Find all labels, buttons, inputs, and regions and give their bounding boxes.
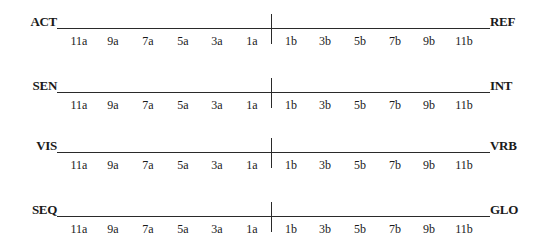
scale-right-pole-label: VRB <box>490 139 517 152</box>
tick-label-a: 11a <box>64 159 94 171</box>
tick-label-a: 9a <box>98 223 128 235</box>
tick-label-a: 9a <box>98 99 128 111</box>
tick-label-a: 11a <box>64 223 94 235</box>
scale-right-pole-label: GLO <box>490 203 518 216</box>
tick-label-a: 3a <box>202 223 232 235</box>
tick-label-b: 5b <box>345 159 375 171</box>
tick-label-a: 9a <box>98 159 128 171</box>
tick-label-a: 3a <box>202 159 232 171</box>
tick-label-b: 7b <box>380 223 410 235</box>
tick-label-a: 3a <box>202 99 232 111</box>
scale-left-pole-label: VIS <box>36 139 57 152</box>
scale-axis-line <box>57 216 490 217</box>
tick-label-b: 9b <box>414 223 444 235</box>
scale-right-pole-label: INT <box>490 79 512 92</box>
tick-label-a: 5a <box>168 99 198 111</box>
tick-label-a: 7a <box>133 159 163 171</box>
tick-label-b: 5b <box>345 223 375 235</box>
tick-label-b: 1b <box>276 159 306 171</box>
scale-axis-line <box>57 92 490 93</box>
tick-label-a: 1a <box>237 223 267 235</box>
tick-label-b: 3b <box>310 159 340 171</box>
tick-label-a: 11a <box>64 99 94 111</box>
scale-center-tick <box>271 202 272 232</box>
tick-label-a: 5a <box>168 223 198 235</box>
scale-left-pole-label: SEQ <box>32 203 57 216</box>
tick-label-b: 11b <box>449 159 479 171</box>
tick-label-b: 9b <box>414 159 444 171</box>
tick-label-a: 1a <box>237 99 267 111</box>
tick-label-a: 5a <box>168 159 198 171</box>
tick-label-b: 9b <box>414 99 444 111</box>
tick-label-a: 1a <box>237 159 267 171</box>
tick-label-b: 5b <box>345 99 375 111</box>
tick-label-b: 1b <box>276 223 306 235</box>
scale-row-sequential-global: SEQGLO11a9a7a5a3a1a1b3b5b7b9b11b <box>0 0 547 40</box>
tick-label-b: 7b <box>380 159 410 171</box>
tick-label-b: 3b <box>310 223 340 235</box>
tick-label-b: 1b <box>276 99 306 111</box>
scale-center-tick <box>271 138 272 168</box>
tick-label-a: 7a <box>133 223 163 235</box>
tick-label-a: 7a <box>133 99 163 111</box>
scale-axis-line <box>57 152 490 153</box>
tick-label-b: 7b <box>380 99 410 111</box>
tick-label-b: 11b <box>449 99 479 111</box>
scale-center-tick <box>271 78 272 108</box>
scale-left-pole-label: SEN <box>33 79 57 92</box>
tick-label-b: 11b <box>449 223 479 235</box>
tick-label-b: 3b <box>310 99 340 111</box>
